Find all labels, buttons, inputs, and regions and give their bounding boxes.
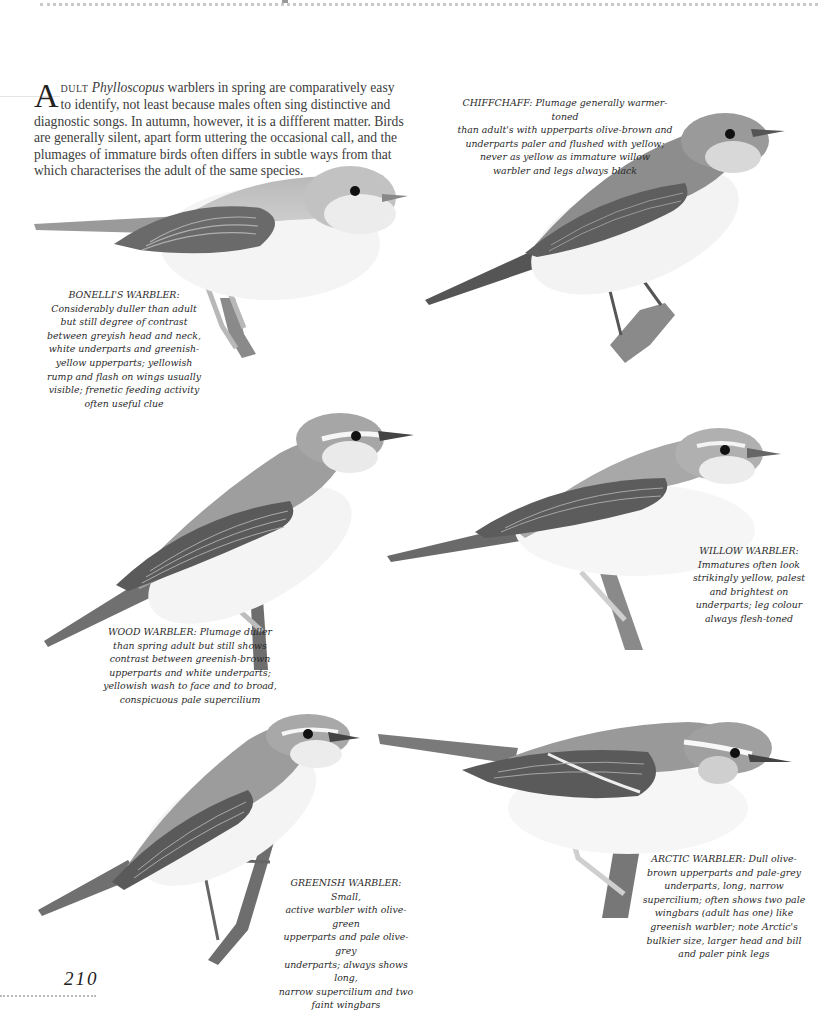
- caption-line: never as yellow as immature willow: [456, 150, 674, 164]
- caption-line: supercilium; often shows two pale: [640, 893, 808, 907]
- caption-species: ARCTIC WARBLER:: [651, 853, 745, 864]
- caption-line: Small,: [331, 891, 361, 902]
- caption-line: faint wingbars: [276, 998, 416, 1012]
- top-rule-mark: [282, 0, 288, 3]
- caption-first-line: CHIFFCHAFF: Plumage generally warmer-ton…: [456, 96, 674, 123]
- caption-line: Immatures often look: [680, 558, 818, 572]
- caption-line: Plumage duller: [200, 626, 272, 637]
- caption-bonelli-warbler: BONELLI'S WARBLER: Considerably duller t…: [34, 288, 214, 410]
- caption-line: strikingly yellow, palest: [680, 571, 818, 585]
- caption-line: underparts; leg colour: [680, 598, 818, 612]
- caption-line: and paler pink legs: [640, 947, 808, 961]
- caption-chiffchaff: CHIFFCHAFF: Plumage generally warmer-ton…: [456, 96, 674, 178]
- caption-line: white underparts and greenish-: [34, 342, 214, 356]
- caption-line: underparts paler and flushed with yellow…: [456, 137, 674, 151]
- top-dotted-rule: [40, 3, 818, 6]
- caption-first-line: ARCTIC WARBLER: Dull olive-: [640, 852, 808, 866]
- caption-species: WILLOW WARBLER:: [680, 544, 818, 558]
- caption-species: GREENISH WARBLER:: [291, 877, 402, 888]
- caption-line: but still degree of contrast: [34, 315, 214, 329]
- caption-line: Plumage generally warmer-toned: [535, 97, 667, 122]
- caption-line: and brightest on: [680, 585, 818, 599]
- caption-wood-warbler: WOOD WARBLER: Plumage duller than spring…: [100, 625, 280, 707]
- caption-line: conspicuous pale supercilium: [100, 693, 280, 707]
- caption-line: active warbler with olive-green: [276, 903, 416, 930]
- caption-line: contrast between greenish-brown: [100, 652, 280, 666]
- bottom-dotted-rule: [0, 995, 96, 997]
- caption-first-line: WOOD WARBLER: Plumage duller: [100, 625, 280, 639]
- caption-line: upperparts and pale olive-grey: [276, 930, 416, 957]
- caption-line: often useful clue: [34, 397, 214, 411]
- caption-willow-warbler: WILLOW WARBLER: Immatures often look str…: [680, 544, 818, 626]
- caption-species: CHIFFCHAFF:: [462, 97, 532, 108]
- caption-species: WOOD WARBLER:: [108, 626, 197, 637]
- caption-line: greenish warbler; note Arctic's: [640, 920, 808, 934]
- caption-line: Considerably duller than adult: [34, 302, 214, 316]
- caption-line: wingbars (adult has one) like: [640, 906, 808, 920]
- caption-line: Dull olive-: [749, 853, 797, 864]
- caption-line: underparts, long, narrow: [640, 879, 808, 893]
- caption-line: underparts; always shows long,: [276, 958, 416, 985]
- caption-line: visible; frenetic feeding activity: [34, 383, 214, 397]
- caption-line: rump and flash on wings usually: [34, 370, 214, 384]
- drop-cap: A: [34, 82, 59, 110]
- caption-line: brown upperparts and pale-grey: [640, 866, 808, 880]
- caption-line: always flesh-toned: [680, 612, 818, 626]
- page-number: 210: [64, 968, 99, 990]
- caption-greenish-warbler: GREENISH WARBLER: Small, active warbler …: [276, 876, 416, 1012]
- caption-line: than adult's with upperparts olive-brown…: [456, 123, 674, 137]
- caption-line: upperparts and white underparts;: [100, 666, 280, 680]
- caption-line: narrow supercilium and two: [276, 985, 416, 999]
- intro-smallcaps: DULT: [61, 83, 89, 94]
- caption-arctic-warbler: ARCTIC WARBLER: Dull olive- brown upperp…: [640, 852, 808, 961]
- caption-line: warbler and legs always black: [456, 164, 674, 178]
- intro-genus: Phylloscopus: [92, 80, 165, 95]
- caption-first-line: GREENISH WARBLER: Small,: [276, 876, 416, 903]
- caption-line: between greyish head and neck,: [34, 329, 214, 343]
- caption-line: yellowish wash to face and to broad,: [100, 679, 280, 693]
- caption-line: yellow upperparts; yellowish: [34, 356, 214, 370]
- caption-species: BONELLI'S WARBLER:: [34, 288, 214, 302]
- caption-line: bulkier size, larger head and bill: [640, 934, 808, 948]
- caption-line: than spring adult but still shows: [100, 639, 280, 653]
